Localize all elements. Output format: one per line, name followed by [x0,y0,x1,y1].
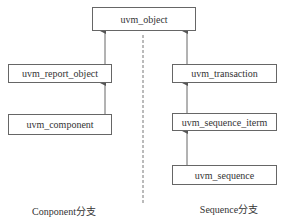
node-label: uvm_transaction [191,68,258,79]
node-uvm-report-object: uvm_report_object [8,64,112,83]
node-uvm-transaction: uvm_transaction [172,64,277,83]
node-uvm-sequence: uvm_sequence [172,165,277,185]
node-label: uvm_component [26,119,93,130]
node-label: uvm_sequence_iterm [182,117,268,128]
node-uvm-object: uvm_object [92,7,196,31]
caption-component-branch: Conponent分支 [28,203,100,218]
node-label: uvm_object [120,14,167,25]
node-label: uvm_sequence [195,170,254,181]
node-uvm-component: uvm_component [8,114,112,135]
connector-layer [0,0,287,224]
caption-sequence-branch: Sequence分支 [196,201,262,216]
node-uvm-sequence-iterm: uvm_sequence_iterm [172,113,277,131]
node-label: uvm_report_object [22,68,98,79]
